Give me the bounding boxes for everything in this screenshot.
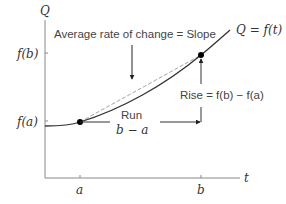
tick-label-fa: f(a) bbox=[16, 115, 38, 129]
x-axis-label: t bbox=[244, 171, 249, 185]
tick-label-fb: f(b) bbox=[16, 47, 39, 61]
tick-label-a: a bbox=[76, 183, 83, 197]
run-value: b − a bbox=[116, 123, 149, 137]
y-axis-label: Q bbox=[40, 4, 50, 18]
rise-annotation: Rise = f(b) − f(a) bbox=[180, 89, 264, 101]
curve-label: Q = f(t) bbox=[236, 23, 282, 37]
secant-annotation: Average rate of change = Slope bbox=[54, 28, 216, 40]
average-rate-of-change-diagram: Q t a b f(a) f(b) Q = f(t) Average rate … bbox=[0, 0, 286, 204]
run-title: Run bbox=[121, 109, 142, 121]
point-b bbox=[198, 52, 204, 58]
tick-label-b: b bbox=[197, 183, 205, 197]
